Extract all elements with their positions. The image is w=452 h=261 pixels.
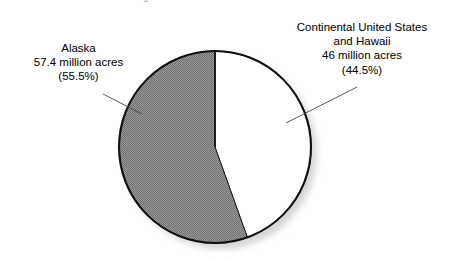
pie-chart-figure: Designated Wilderness Land in the United…: [0, 0, 452, 261]
slice-label-continental-percent: (44.5%): [276, 63, 448, 77]
slice-label-continental-name-line1: Continental United States: [276, 20, 448, 34]
slice-label-continental-value: 46 million acres: [276, 48, 448, 62]
slice-label-alaska-name: Alaska: [6, 41, 151, 55]
slice-label-continental: Continental United States and Hawaii 46 …: [276, 20, 448, 77]
slice-label-alaska: Alaska 57.4 million acres (55.5%): [6, 41, 151, 84]
slice-label-continental-name-line2: and Hawaii: [276, 34, 448, 48]
slice-label-alaska-value: 57.4 million acres: [6, 55, 151, 69]
slice-label-alaska-percent: (55.5%): [6, 69, 151, 83]
